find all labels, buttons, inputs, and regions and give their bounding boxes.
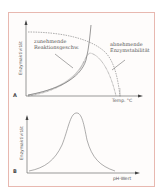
panel-a-label: A [13,92,17,98]
enzyme-activity-diagram: zunehmende Reaktionsgeschw. abnehmende E… [0,0,164,192]
panel-b-x-arrow [135,172,140,175]
ph-activity-curve [29,113,115,171]
annotation-rate-2: Reaktionsgeschw. [34,44,80,51]
panel-b-x-label: pH-Wert [113,176,131,181]
panel-a-y-label: Enzymaktivität [18,41,23,75]
pointer-rate [55,54,73,68]
enzyme-activity-curve-inner [28,61,84,95]
panel-a-x-label: Temp. °C [111,98,132,103]
panel-b-y-label: Enzymaktivität [19,126,24,160]
panel-b-y-arrow [26,115,29,120]
annotation-stability-2: Enzymstabilität [110,47,150,54]
pointer-stability [112,60,125,70]
reaction-rate-curve [28,25,91,95]
panel-a-x-arrow [138,95,143,98]
panel-a-y-arrow [25,20,28,25]
panel-b-label: B [13,168,17,174]
enzyme-activity-curve [28,53,116,96]
